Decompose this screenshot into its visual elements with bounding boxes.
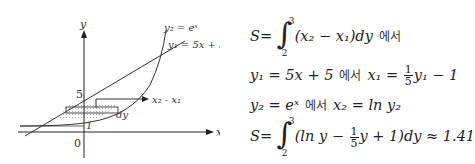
lower-bound: 2 <box>282 148 288 158</box>
integrand: (x₂ − x₁)dy <box>295 28 373 44</box>
korean-text: 에서 <box>379 30 401 44</box>
strip-arrow-label: x₂ - x₁ <box>152 94 181 105</box>
equals-sign: = <box>260 128 272 144</box>
formula-line-1: S= ∫ 3 2 (x₂ − x₁)dy에서 <box>250 22 407 52</box>
fraction: 15 <box>404 64 413 87</box>
exp-equation: y₂ = eˣ <box>250 97 299 113</box>
origin-label: 0 <box>74 137 81 150</box>
strip-arrow-icon <box>142 96 149 102</box>
x-axis-label: x <box>216 126 220 139</box>
exp-curve-label: y₂ = eˣ <box>163 22 198 33</box>
fraction-denominator: 5 <box>405 76 412 87</box>
tick-5-label: 5 <box>76 88 83 101</box>
integral-sign: ∫ 3 2 <box>277 122 295 152</box>
line-label: y₁ = 5x + 5 <box>167 39 220 50</box>
formula-line-4: S= ∫ 3 2 (ln y − 15y + 1)dy ≈ 1.41 <box>250 122 475 152</box>
fraction: 15 <box>350 126 359 149</box>
formula-block: S= ∫ 3 2 (x₂ − x₁)dy에서 y₁ = 5x + 5에서x₁ =… <box>250 0 439 164</box>
x1-expression: x₁ = <box>367 67 398 83</box>
formula-line-2: y₁ = 5x + 5에서x₁ = 15y₁ − 1 <box>250 64 458 87</box>
graph-svg: y x 0 5 1 y₂ = eˣ y₁ = 5x + 5 x₂ - x₁ dy <box>0 0 220 164</box>
y-axis-label: y <box>79 18 87 31</box>
fraction-denominator: 5 <box>351 138 358 149</box>
x2-expression: x₂ = ln y₂ <box>333 97 401 113</box>
graph-diagram: y x 0 5 1 y₂ = eˣ y₁ = 5x + 5 x₂ - x₁ dy <box>0 0 220 164</box>
x-axis-arrow-icon <box>206 129 214 135</box>
area-symbol: S <box>250 28 260 44</box>
linear-line <box>25 41 185 136</box>
korean-text: 에서 <box>305 99 327 113</box>
lower-bound: 2 <box>282 48 288 58</box>
upper-bound: 3 <box>289 116 295 126</box>
tick-1-label: 1 <box>86 120 92 131</box>
equals-sign: = <box>260 28 272 44</box>
formula-line-3: y₂ = eˣ에서x₂ = ln y₂ <box>250 96 401 113</box>
fraction-numerator: 1 <box>350 126 359 138</box>
korean-text: 에서 <box>339 69 361 83</box>
integral-sign: ∫ 3 2 <box>277 22 295 52</box>
integrand-tail: y + 1)dy ≈ 1.41 <box>360 128 475 144</box>
line-equation: y₁ = 5x + 5 <box>250 67 333 83</box>
x1-tail: y₁ − 1 <box>414 67 459 83</box>
integrand-head: (ln y − <box>295 128 344 144</box>
dy-label: dy <box>116 109 128 120</box>
area-symbol: S <box>250 128 260 144</box>
y-axis-arrow-icon <box>81 30 87 38</box>
upper-bound: 3 <box>289 16 295 26</box>
